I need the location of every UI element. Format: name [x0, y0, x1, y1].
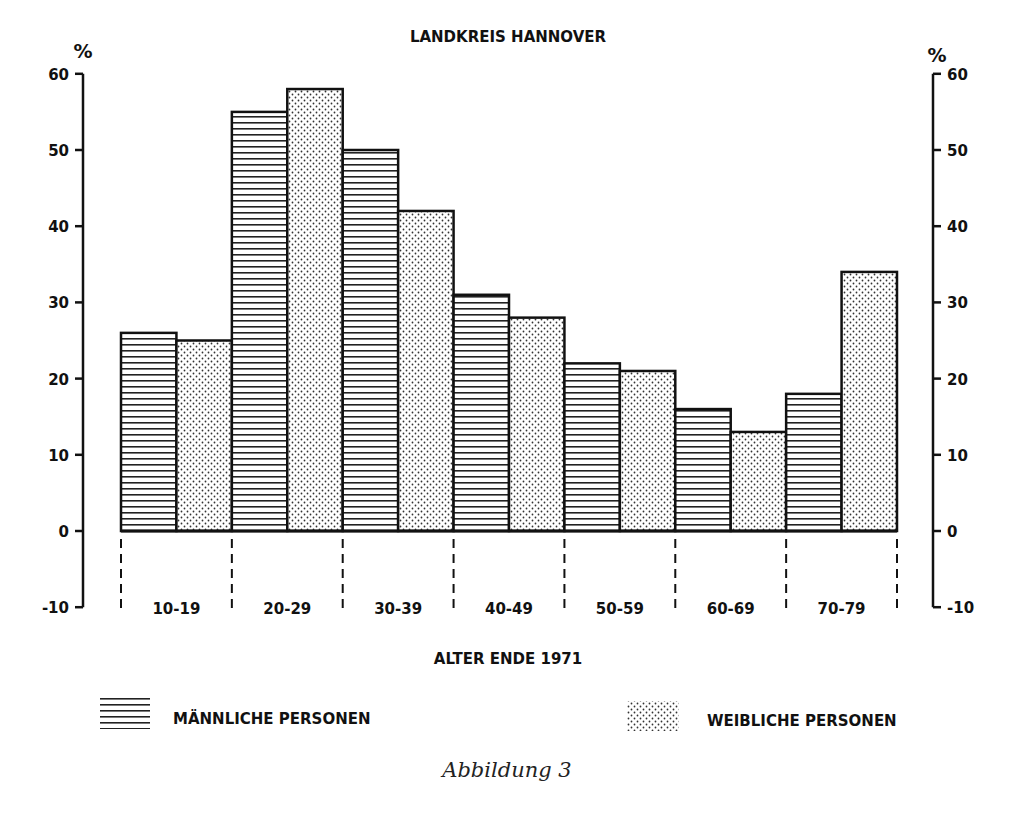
bar-male-50-59 [564, 363, 619, 531]
left-tick-label: 10 [48, 447, 69, 465]
x-category-label: 20-29 [263, 600, 311, 618]
x-category-label: 70-79 [818, 600, 866, 618]
left-tick-label: 60 [48, 66, 69, 84]
right-y-axis: % 6050403020100-10 [927, 44, 974, 617]
chart-title: LANDKREIS HANNOVER [410, 28, 607, 46]
right-tick-label: 20 [947, 371, 968, 389]
right-tick-label: 50 [947, 142, 968, 160]
bar-male-30-39 [343, 150, 398, 531]
right-axis-unit: % [927, 44, 946, 66]
right-tick-label: 10 [947, 447, 968, 465]
left-axis-unit: % [73, 40, 92, 62]
bar-female-20-29 [287, 89, 342, 531]
bars [121, 89, 897, 531]
figure-caption: Abbildung 3 [0, 758, 1014, 782]
bar-female-10-19 [176, 341, 231, 532]
right-tick-label: 0 [947, 523, 957, 541]
left-tick-label: 40 [48, 218, 69, 236]
x-category-label: 40-49 [485, 600, 533, 618]
bar-male-70-79 [786, 394, 841, 531]
bar-female-70-79 [842, 272, 897, 531]
x-axis-label: ALTER ENDE 1971 [434, 650, 582, 668]
left-tick-label: 20 [48, 371, 69, 389]
left-y-axis: % 6050403020100-10 [42, 40, 93, 617]
legend-label-female: WEIBLICHE PERSONEN [707, 712, 897, 730]
bar-male-10-19 [121, 333, 176, 531]
legend-label-male: MÄNNLICHE PERSONEN [173, 709, 371, 728]
x-category-label: 60-69 [707, 600, 755, 618]
legend: MÄNNLICHE PERSONEN WEIBLICHE PERSONEN [100, 697, 897, 731]
bar-male-60-69 [675, 409, 730, 531]
x-axis-categories: 10-1920-2930-3940-4950-5960-6970-79 [121, 539, 897, 618]
x-category-label: 50-59 [596, 600, 644, 618]
legend-item-male: MÄNNLICHE PERSONEN [100, 697, 371, 729]
x-category-label: 30-39 [374, 600, 422, 618]
x-category-label: 10-19 [152, 600, 200, 618]
left-tick-label: 50 [48, 142, 69, 160]
left-tick-label: 0 [59, 523, 69, 541]
left-tick-label: -10 [42, 599, 69, 617]
bar-female-30-39 [398, 211, 453, 531]
bar-male-20-29 [232, 112, 287, 531]
bar-male-40-49 [454, 295, 509, 531]
bar-female-50-59 [620, 371, 675, 531]
left-tick-label: 30 [48, 294, 69, 312]
legend-item-female: WEIBLICHE PERSONEN [627, 701, 897, 731]
right-tick-label: -10 [947, 599, 974, 617]
legend-swatch-dots [627, 701, 679, 731]
bar-chart: LANDKREIS HANNOVER % 6050403020100-10 % … [0, 0, 1014, 813]
bar-female-60-69 [731, 432, 786, 531]
right-tick-label: 60 [947, 66, 968, 84]
bar-female-40-49 [509, 318, 564, 531]
legend-swatch-lines [100, 697, 150, 729]
right-tick-label: 40 [947, 218, 968, 236]
right-tick-label: 30 [947, 294, 968, 312]
